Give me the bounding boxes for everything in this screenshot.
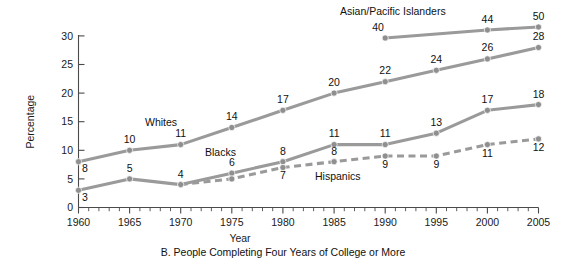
point-label: 8 — [280, 145, 286, 157]
point-label: 12 — [533, 141, 545, 153]
y-tick-0: 0 — [67, 201, 73, 213]
point-label: 8 — [331, 145, 337, 157]
data-point — [382, 142, 388, 148]
y-tick-5: 5 — [67, 173, 73, 185]
series-label-whites: Whites — [145, 116, 177, 128]
x-tick-2000: 2000 — [476, 216, 500, 228]
point-label: 44 — [482, 13, 494, 25]
point-label: 11 — [380, 127, 391, 139]
data-point — [484, 27, 490, 33]
y-tick-30: 30 — [61, 30, 73, 42]
point-label: 28 — [533, 30, 545, 42]
data-point — [535, 102, 541, 108]
y-tick-25: 25 — [61, 58, 73, 70]
point-label: 5 — [127, 162, 133, 174]
point-label: 3 — [82, 191, 88, 203]
point-label: 11 — [175, 127, 186, 139]
data-point — [280, 107, 286, 113]
y-tick-15: 15 — [61, 115, 73, 127]
point-label: 18 — [533, 88, 545, 100]
point-label: 24 — [430, 53, 442, 65]
data-point — [535, 44, 541, 50]
x-tick-2005: 2005 — [527, 216, 551, 228]
x-tick-1965: 1965 — [118, 216, 142, 228]
point-label: 20 — [328, 76, 340, 88]
data-point — [75, 187, 81, 193]
point-label: 9 — [433, 158, 439, 170]
x-tick-1990: 1990 — [374, 216, 398, 228]
point-label: 13 — [430, 116, 442, 128]
data-point — [280, 159, 286, 165]
data-point — [484, 56, 490, 62]
data-point — [382, 79, 388, 85]
x-tick-1985: 1985 — [322, 216, 346, 228]
x-axis-title: Year — [229, 232, 251, 244]
data-point — [535, 24, 541, 30]
y-axis-title: Percentage — [24, 95, 36, 149]
series-label-asian-pacific-islanders: Asian/Pacific Islanders — [340, 5, 446, 17]
data-point — [484, 107, 490, 113]
data-point — [331, 90, 337, 96]
point-label: 11 — [329, 127, 340, 139]
series-label-blacks: Blacks — [205, 146, 236, 158]
chart-container: 0 5 10 15 20 25 30 Percentage — [0, 0, 567, 259]
data-point — [127, 176, 133, 182]
data-point — [127, 147, 133, 153]
data-point — [433, 130, 439, 136]
y-tick-10: 10 — [61, 144, 73, 156]
point-label: 7 — [280, 169, 286, 181]
point-label: 11 — [482, 147, 493, 159]
data-point — [178, 142, 184, 148]
point-label: 8 — [82, 162, 88, 174]
point-label: 17 — [482, 93, 494, 105]
x-tick-1995: 1995 — [425, 216, 449, 228]
point-label: 9 — [382, 158, 388, 170]
x-tick-1975: 1975 — [220, 216, 244, 228]
data-point — [433, 67, 439, 73]
point-label: 17 — [277, 93, 289, 105]
data-point — [331, 159, 337, 165]
point-label: 26 — [482, 41, 494, 53]
point-label: 14 — [226, 110, 238, 122]
data-point — [178, 182, 184, 188]
point-label: 40 — [372, 21, 384, 33]
chart-caption: B. People Completing Four Years of Colle… — [161, 246, 406, 258]
series-label-hispanics: Hispanics — [315, 170, 361, 182]
y-tick-20: 20 — [61, 87, 73, 99]
data-point — [229, 124, 235, 130]
point-label: 22 — [379, 64, 391, 76]
data-point — [229, 170, 235, 176]
point-label: 50 — [533, 10, 545, 22]
data-point — [75, 159, 81, 165]
x-tick-1970: 1970 — [169, 216, 193, 228]
point-label: 10 — [124, 133, 136, 145]
x-tick-1960: 1960 — [67, 216, 91, 228]
x-tick-1980: 1980 — [271, 216, 295, 228]
data-point — [382, 35, 388, 41]
point-label: 4 — [178, 168, 184, 180]
data-point — [229, 176, 235, 182]
